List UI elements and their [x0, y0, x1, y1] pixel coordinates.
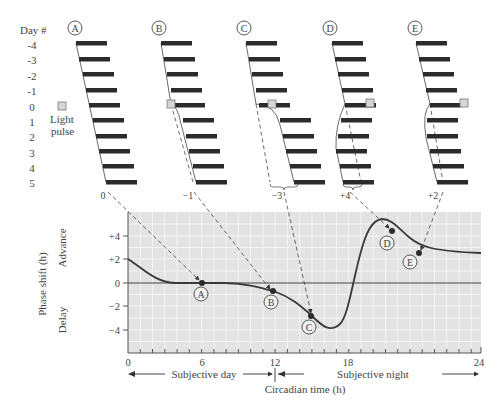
actogram-panel-d: D +4 [323, 21, 376, 201]
svg-text:0: 0 [125, 357, 130, 368]
panel-label: D [326, 23, 333, 34]
phase-shift-label: −3 [272, 190, 283, 201]
point-d-label: D [383, 238, 390, 249]
actogram-panel-b: B −1 [152, 21, 227, 201]
svg-text:4: 4 [29, 162, 35, 174]
actogram-panel-e: E +2 [408, 21, 468, 201]
svg-text:−4: −4 [109, 325, 121, 336]
svg-text:−2: −2 [109, 301, 120, 312]
x-tick-labels: 0 6 12 18 24 [125, 357, 485, 368]
x-axis-title: Circadian time (h) [265, 383, 346, 396]
svg-text:12: 12 [270, 357, 281, 368]
svg-text:1: 1 [29, 116, 35, 128]
panel-label: C [241, 23, 248, 34]
subjective-night-label: Subjective night [337, 368, 409, 380]
phase-response-plot: +4 +2 0 −2 −4 0 6 12 18 24 Phase shift (… [36, 212, 485, 396]
svg-text:-1: -1 [27, 85, 36, 97]
light-pulse-label-1: Light [50, 113, 74, 125]
svg-text:6: 6 [199, 357, 204, 368]
svg-text:24: 24 [474, 357, 485, 368]
panel-label: B [156, 23, 163, 34]
svg-text:-2: -2 [27, 70, 36, 82]
point-b-marker [270, 288, 276, 294]
point-c-label: C [306, 322, 313, 333]
phase-response-figure: Day # -4 -3 -2 -1 0 1 2 3 4 5 Light puls… [0, 0, 486, 405]
actogram-panel-a: A 0 [68, 21, 137, 201]
svg-text:-3: -3 [27, 54, 37, 66]
y-tick-labels: +4 +2 0 −2 −4 [109, 231, 121, 336]
phase-shift-label: +2 [428, 190, 439, 201]
panel-label: E [412, 23, 418, 34]
phase-shift-label: +4 [340, 190, 351, 201]
svg-text:+2: +2 [109, 254, 120, 265]
panel-label: A [71, 23, 79, 34]
activity-bars [332, 41, 376, 185]
svg-text:0: 0 [115, 278, 120, 289]
light-pulse-label-2: pulse [51, 125, 74, 137]
svg-text:0: 0 [29, 101, 35, 113]
delay-label: Delay [56, 306, 68, 333]
point-e-label: E [407, 257, 413, 268]
activity-bars [76, 41, 137, 185]
svg-text:+4: +4 [109, 231, 121, 242]
light-pulse-legend-icon [58, 102, 66, 110]
light-pulse-marker [167, 100, 175, 108]
svg-text:18: 18 [343, 357, 354, 368]
day-labels: -4 -3 -2 -1 0 1 2 3 4 5 [27, 39, 37, 189]
light-pulse-marker [460, 99, 468, 107]
svg-text:5: 5 [29, 177, 35, 189]
point-b-label: B [268, 297, 275, 308]
subjective-day-label: Subjective day [171, 368, 237, 380]
advance-label: Advance [56, 228, 68, 267]
point-a-label: A [197, 289, 205, 300]
phase-shift-label: 0 [101, 190, 106, 201]
svg-text:2: 2 [29, 131, 35, 143]
point-e-marker [416, 250, 422, 256]
day-column-header: Day # [20, 24, 47, 36]
actogram-panel-c: C −3 [237, 21, 325, 201]
activity-bars [161, 41, 227, 185]
phase-shift-label: −1 [183, 190, 194, 201]
svg-text:3: 3 [29, 147, 35, 159]
point-d-marker [389, 228, 395, 234]
light-pulse-marker [366, 99, 374, 107]
light-pulse-marker [268, 100, 276, 108]
y-axis-title: Phase shift (h) [36, 252, 49, 316]
point-c-marker [308, 313, 314, 319]
point-a-marker [199, 280, 205, 286]
activity-bars [416, 41, 468, 185]
svg-text:-4: -4 [27, 39, 37, 51]
